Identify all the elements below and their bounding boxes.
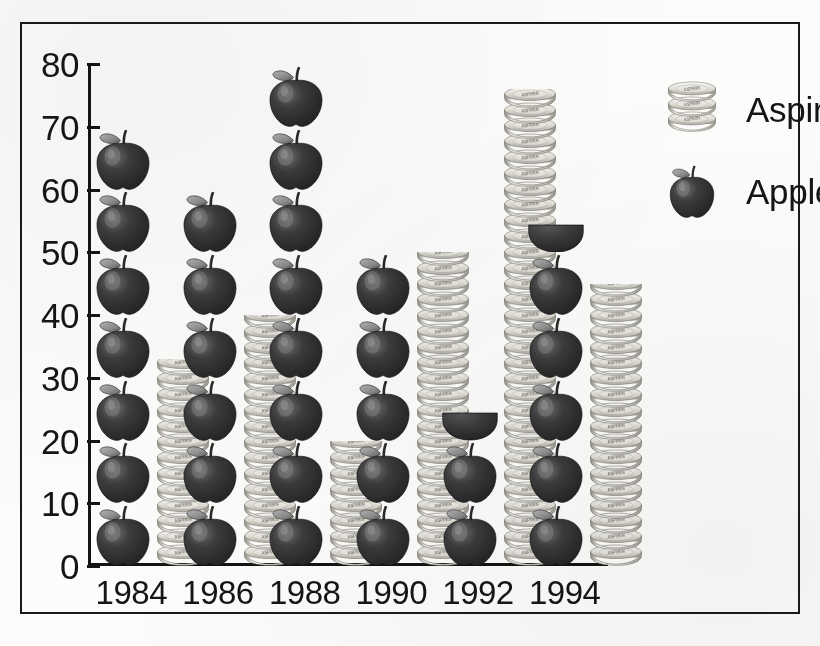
apple-glyph (352, 441, 414, 503)
apple-glyph (525, 379, 587, 441)
half-apple-glyph (439, 412, 501, 441)
apple-unit (179, 504, 241, 566)
y-axis-label: 60 (41, 172, 79, 207)
apple-unit (92, 316, 154, 378)
legend-label: Aspirin (746, 92, 820, 127)
aspirin-tablet-glyph: ASPIRIN (667, 81, 717, 102)
bar-group-1986: ASPIRIN (175, 64, 262, 566)
apple-glyph (92, 504, 154, 566)
apple-glyph (92, 441, 154, 503)
apple-glyph (439, 441, 501, 503)
chart-legend: ASPIRIN ASPIRIN (660, 68, 820, 232)
apple-unit (92, 441, 154, 503)
apple-glyph (92, 253, 154, 315)
apples-column-1990 (352, 252, 414, 566)
apple-glyph (179, 379, 241, 441)
apple-unit (525, 316, 587, 378)
apple-unit (265, 253, 327, 315)
apple-unit (352, 379, 414, 441)
apple-glyph (179, 253, 241, 315)
apple-glyph (92, 190, 154, 252)
apple-unit (179, 190, 241, 252)
apple-glyph (92, 316, 154, 378)
x-axis-label-1984: 1984 (96, 576, 167, 609)
y-axis-label: 80 (41, 47, 79, 82)
apple-glyph (92, 379, 154, 441)
bar-group-1984: ASPIRIN (88, 64, 175, 566)
apple-glyph (352, 316, 414, 378)
apple-unit (265, 316, 327, 378)
apples-column-1988 (265, 64, 327, 566)
apple-partial-unit (525, 224, 587, 253)
y-axis-label: 20 (41, 423, 79, 458)
apple-unit (179, 441, 241, 503)
apple-unit (265, 190, 327, 252)
apple-glyph (265, 441, 327, 503)
apple-glyph (265, 65, 327, 127)
apple-unit (525, 441, 587, 503)
apple-unit (439, 441, 501, 503)
apple-glyph (525, 316, 587, 378)
apple-glyph (179, 190, 241, 252)
apple-partial-unit (439, 412, 501, 441)
apple-glyph (265, 504, 327, 566)
apple-unit (265, 65, 327, 127)
y-axis-label: 30 (41, 360, 79, 395)
x-axis-label-1992: 1992 (442, 576, 513, 609)
y-axis-label: 40 (41, 298, 79, 333)
apple-unit (525, 253, 587, 315)
apple-glyph (352, 379, 414, 441)
aspirin-tablet-glyph: ASPIRIN (589, 284, 643, 298)
apple-glyph (179, 504, 241, 566)
apple-unit (179, 379, 241, 441)
apple-unit (525, 504, 587, 566)
apple-unit (265, 441, 327, 503)
bar-group-1988: ASPIRIN (261, 64, 348, 566)
apple-unit (92, 379, 154, 441)
apple-unit (92, 253, 154, 315)
apple-unit (179, 253, 241, 315)
apple-glyph (352, 504, 414, 566)
bar-group-1994: ASPIRIN (521, 64, 608, 566)
apple-glyph (525, 441, 587, 503)
apples-column-1984 (92, 127, 154, 566)
apple-unit (92, 128, 154, 190)
apple-unit (265, 128, 327, 190)
apple-glyph (666, 164, 718, 218)
half-apple-glyph (525, 224, 587, 253)
y-axis-label: 0 (60, 549, 79, 584)
y-axis-label: 50 (41, 235, 79, 270)
apple-glyph (265, 128, 327, 190)
legend-item-apples: Apples (660, 150, 820, 232)
x-axis-label-1986: 1986 (182, 576, 253, 609)
plot-area: 01020304050607080 (88, 64, 608, 566)
x-axis-label-1994: 1994 (529, 576, 600, 609)
apple-unit (179, 316, 241, 378)
scanned-page: 01020304050607080 (0, 0, 820, 646)
apples-column-1986 (179, 190, 241, 567)
apple-glyph (92, 128, 154, 190)
apple-glyph (265, 190, 327, 252)
bar-group-1990: ASPIRIN (348, 64, 435, 566)
legend-item-aspirin: ASPIRIN ASPIRIN (660, 68, 820, 150)
aspirin-column-1994: ASPIRIN (589, 284, 643, 566)
apple-glyph (265, 379, 327, 441)
y-axis-label: 70 (41, 109, 79, 144)
apple-glyph (265, 253, 327, 315)
apple-glyph (179, 441, 241, 503)
x-axis-label-1988: 1988 (269, 576, 340, 609)
apple-unit (525, 379, 587, 441)
apple-glyph (179, 316, 241, 378)
apple-icon (660, 164, 724, 218)
apples-column-1994 (525, 221, 587, 566)
bar-group-1992: ASPIRIN (435, 64, 522, 566)
apple-glyph (265, 316, 327, 378)
apple-unit (352, 316, 414, 378)
y-axis-label: 10 (41, 486, 79, 521)
apple-glyph (439, 504, 501, 566)
apple-unit (352, 253, 414, 315)
apple-unit (265, 379, 327, 441)
chart-frame: 01020304050607080 (20, 22, 800, 614)
apple-glyph (525, 504, 587, 566)
legend-label: Apples (746, 174, 820, 209)
